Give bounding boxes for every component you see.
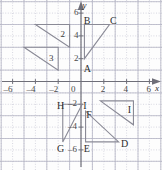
vertex-label-f: F <box>86 110 92 120</box>
vertex-label-c: C <box>110 16 117 26</box>
tick-label-y: –4 <box>68 122 77 131</box>
vertex-label-i: I <box>83 101 86 111</box>
coordinate-diagram: –6–4–2246642–2–4–60xy23ABCDEFGHII <box>0 0 162 170</box>
vertex-label-d: D <box>121 139 128 149</box>
tick-label-x: –4 <box>26 85 35 94</box>
vertex-label-b: B <box>84 16 91 26</box>
vertex-label-i2: I <box>128 105 131 115</box>
vertex-label-h: H <box>57 101 64 111</box>
tick-label-x: –6 <box>4 85 13 94</box>
vertex-label-e: E <box>84 144 90 154</box>
shape-inner-label: 2 <box>60 30 65 39</box>
tick-label-y: –6 <box>68 145 77 154</box>
vertex-label-g: G <box>57 144 64 154</box>
tick-label-x: –2 <box>49 85 58 94</box>
vertex-label-a: A <box>84 64 91 74</box>
origin-label: 0 <box>71 85 76 94</box>
grid-canvas <box>0 0 162 170</box>
tick-label-y: –2 <box>68 99 77 108</box>
x-axis-label: x <box>155 84 159 93</box>
tick-label-y: 2 <box>74 54 79 63</box>
tick-label-x: 4 <box>124 85 129 94</box>
tick-label-x: 6 <box>146 85 151 94</box>
tick-label-y: 6 <box>74 8 79 17</box>
triangle-abc <box>84 25 109 59</box>
tick-label-y: 4 <box>74 31 79 40</box>
tick-label-x: 2 <box>101 85 106 94</box>
shape-inner-label: 3 <box>49 54 54 63</box>
y-axis-label: y <box>83 1 87 10</box>
